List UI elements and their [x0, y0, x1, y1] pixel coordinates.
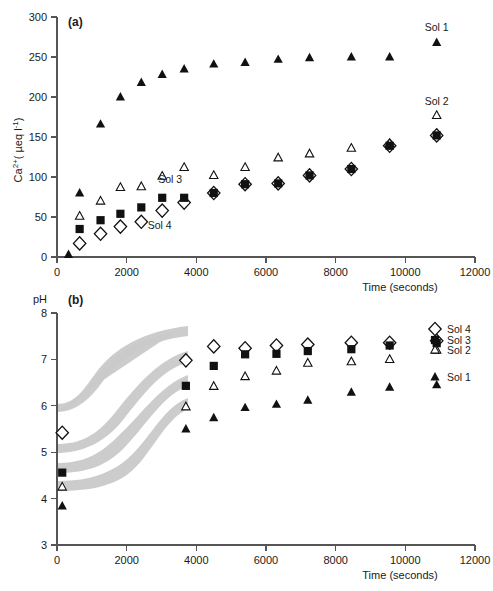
panel-b-xtick-8000: 8000: [323, 554, 347, 566]
panel-b-xtick-0: 0: [54, 554, 60, 566]
filled-square-icon: [241, 350, 249, 358]
panel-a-xtick-10000: 10000: [390, 266, 421, 278]
figure-svg: (a) Ca2+( µeq l-1) 0 50 10: [0, 0, 493, 591]
filled-square-icon: [76, 225, 84, 233]
panel-b-xtick-4000: 4000: [184, 554, 208, 566]
panel-a-annotation-sol-2: Sol 2: [425, 95, 449, 107]
panel-a-ytick-200: 200: [29, 91, 47, 103]
panel-a-xtick-8000: 8000: [323, 266, 347, 278]
filled-square-icon: [347, 345, 355, 353]
filled-square-icon: [305, 171, 313, 179]
panel-b-ytick-3: 3: [41, 539, 47, 551]
panel-b-xtick-2000: 2000: [114, 554, 138, 566]
filled-square-icon: [386, 142, 394, 150]
panel-b-ytick-6: 6: [41, 400, 47, 412]
data-point-sol-3: [76, 225, 84, 233]
panel-a-ytick-100: 100: [29, 171, 47, 183]
filled-square-icon: [272, 350, 280, 358]
panel-a-label: (a): [68, 15, 83, 29]
data-point-sol-3: [210, 189, 218, 197]
data-point-sol-3: [241, 180, 249, 188]
data-point-sol-3: [58, 469, 66, 477]
panel-b-ytick-5: 5: [41, 446, 47, 458]
filled-square-icon: [304, 347, 312, 355]
panel-a-xlabel: Time (seconds): [362, 281, 437, 293]
panel-a-ytick-150: 150: [29, 131, 47, 143]
panel-b-xtick-12000: 12000: [460, 554, 491, 566]
legend-label-sol-2: Sol 2: [447, 344, 471, 356]
figure-container: (a) Ca2+( µeq l-1) 0 50 10: [0, 0, 493, 591]
panel-a-ytick-300: 300: [29, 11, 47, 23]
filled-square-icon: [96, 216, 104, 224]
panel-b-xtick-10000: 10000: [390, 554, 421, 566]
panel-b-ytick-4: 4: [41, 493, 47, 505]
data-point-sol-3: [347, 345, 355, 353]
panel-a-annotation-sol-1: Sol 1: [425, 21, 449, 33]
data-point-sol-3: [116, 210, 124, 218]
filled-square-icon: [433, 131, 441, 139]
filled-square-icon: [347, 165, 355, 173]
filled-square-icon: [210, 362, 218, 370]
panel-a-ytick-50: 50: [35, 211, 47, 223]
data-point-sol-3: [304, 347, 312, 355]
panel-b-label: (b): [68, 293, 83, 307]
filled-square-icon: [274, 179, 282, 187]
ylabel-charge: 2+: [11, 159, 20, 168]
filled-square-icon: [180, 194, 188, 202]
data-point-sol-3: [272, 350, 280, 358]
data-point-sol-3: [158, 194, 166, 202]
ylabel-paren: ): [12, 118, 24, 122]
panel-a-ytick-0: 0: [41, 251, 47, 263]
panel-a-xtick-4000: 4000: [184, 266, 208, 278]
panel-a-xtick-6000: 6000: [254, 266, 278, 278]
data-point-sol-3: [210, 362, 218, 370]
filled-square-icon: [386, 341, 394, 349]
data-point-sol-3: [241, 350, 249, 358]
panel-b-xtick-6000: 6000: [254, 554, 278, 566]
panel-b-xlabel: Time (seconds): [362, 569, 437, 581]
panel-a-xtick-12000: 12000: [460, 266, 491, 278]
panel-b-legend: Sol 4 Sol 3 Sol 2 Sol 1: [429, 322, 471, 383]
filled-square-icon: [431, 336, 439, 344]
ylabel-ca: Ca: [12, 167, 24, 182]
filled-square-icon: [241, 180, 249, 188]
filled-square-icon: [58, 469, 66, 477]
filled-square-icon: [182, 382, 190, 390]
filled-square-icon: [210, 189, 218, 197]
filled-square-icon: [158, 194, 166, 202]
data-point-sol-3: [386, 341, 394, 349]
data-point-sol-3: [182, 382, 190, 390]
data-point-sol-3: [96, 216, 104, 224]
panel-a-annotation-sol-3: Sol 3: [158, 173, 182, 185]
legend-label-sol-1: Sol 1: [447, 371, 471, 383]
data-point-sol-3: [347, 165, 355, 173]
data-point-sol-3: [386, 142, 394, 150]
panel-a-xtick-0: 0: [54, 266, 60, 278]
panel-a-xtick-2000: 2000: [114, 266, 138, 278]
data-point-sol-3: [305, 171, 313, 179]
data-point-sol-3: [137, 203, 145, 211]
panel-b-ylabel: pH: [33, 293, 47, 305]
data-point-sol-3: [274, 179, 282, 187]
panel-a-annotation-sol-4: Sol 4: [148, 219, 172, 231]
data-point-sol-3: [433, 131, 441, 139]
panel-b-ytick-7: 7: [41, 353, 47, 365]
filled-square-icon: [116, 210, 124, 218]
panel-b-ytick-8: 8: [41, 307, 47, 319]
ylabel-units: ( µeq l: [12, 128, 24, 159]
filled-square-icon: [137, 203, 145, 211]
panel-a-ytick-250: 250: [29, 51, 47, 63]
data-point-sol-3: [180, 194, 188, 202]
